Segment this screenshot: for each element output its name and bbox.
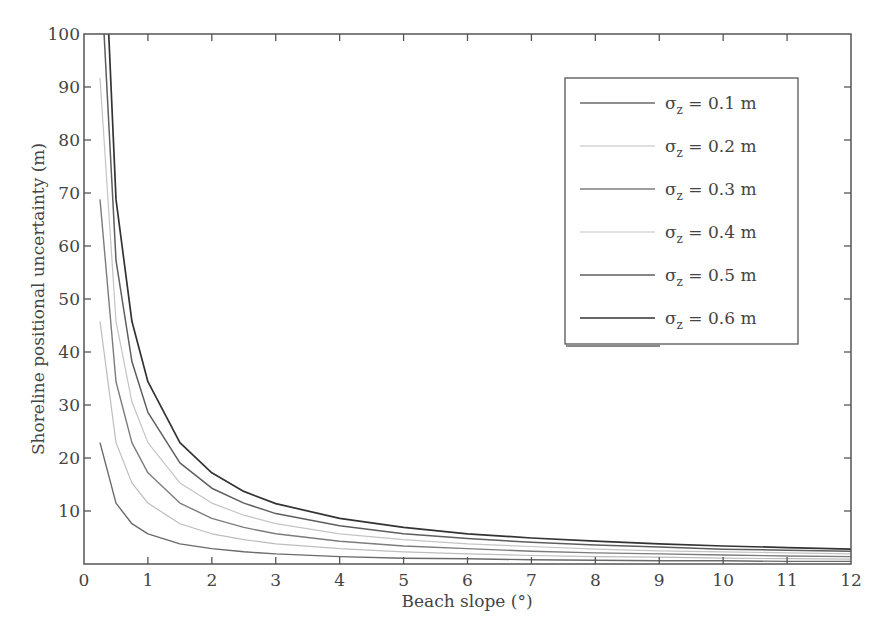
line-chart: 0123456789101112 102030405060708090100 B… xyxy=(0,0,884,630)
x-tick-label: 7 xyxy=(526,570,537,590)
y-tick-label: 80 xyxy=(58,130,80,150)
x-axis-label: Beach slope (°) xyxy=(401,591,532,611)
x-tick-label: 12 xyxy=(840,570,862,590)
legend: σz = 0.1 mσz = 0.2 mσz = 0.3 mσz = 0.4 m… xyxy=(565,78,798,346)
y-tick-label: 100 xyxy=(48,24,80,44)
x-tick-label: 6 xyxy=(462,570,473,590)
x-tick-label: 11 xyxy=(776,570,798,590)
x-tick-label: 9 xyxy=(654,570,665,590)
x-tick-label: 1 xyxy=(143,570,154,590)
x-tick-label: 10 xyxy=(712,570,734,590)
x-tick-label: 8 xyxy=(590,570,601,590)
y-axis-label: Shoreline positional uncertainty (m) xyxy=(28,143,48,455)
y-tick-label: 20 xyxy=(58,448,80,468)
y-tick-label: 70 xyxy=(58,183,80,203)
series-line-2 xyxy=(100,321,851,559)
y-tick-label: 50 xyxy=(58,289,80,309)
x-tick-label: 4 xyxy=(334,570,345,590)
y-tick-label: 40 xyxy=(58,342,80,362)
x-tick-label: 0 xyxy=(79,570,90,590)
x-tick-label: 3 xyxy=(270,570,281,590)
series-line-1 xyxy=(100,443,851,562)
y-tick-label: 30 xyxy=(58,395,80,415)
legend-box xyxy=(565,78,798,344)
y-tick-label: 10 xyxy=(58,501,80,521)
x-tick-label: 5 xyxy=(398,570,409,590)
y-tick-label: 90 xyxy=(58,77,80,97)
x-tick-label: 2 xyxy=(206,570,217,590)
y-tick-label: 60 xyxy=(58,236,80,256)
